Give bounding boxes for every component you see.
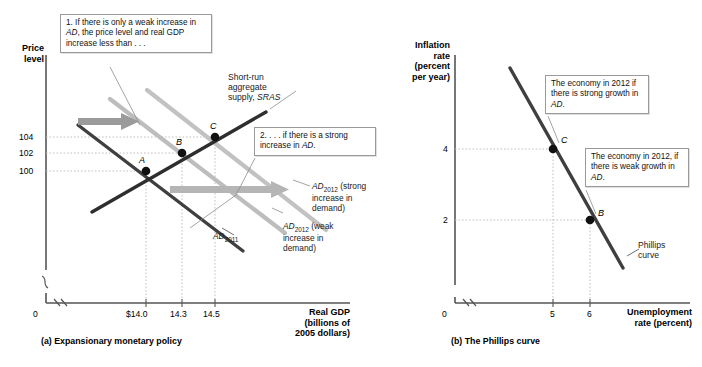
sras-curve-label: Short-run aggregate supply, SRAS [228, 72, 318, 102]
panel-b-x-axis-title: Unemployment rate (percent) [610, 307, 692, 328]
phillips-curve-label-line1: Phillips [638, 240, 694, 250]
panel-a-caption: (a) Expansionary monetary policy [41, 336, 182, 346]
callout-weak-growth-italic: AD [591, 173, 602, 182]
ad-2012-weak-note-line3: demand) [283, 244, 345, 254]
phillips-curve-label-line2: curve [638, 250, 694, 260]
ad-2012-weak-curve [110, 99, 285, 233]
panel-a-point-label-c: C [210, 121, 217, 131]
ad-2012-strong-label-sub: 2012 [324, 186, 338, 193]
panel-a-y-tick-102: 102 [19, 148, 33, 158]
callout-weak-increase: 1. If there is only a weak increase in A… [60, 14, 212, 53]
panel-b-origin-label: 0 [442, 309, 447, 319]
callout-weak-increase-pre: 1. If there is only a weak increase in [66, 18, 196, 27]
ad-2011-curve-label: AD2011 [213, 232, 238, 244]
sras-curve-label-line2: aggregate [228, 82, 318, 92]
panel-b-y-axis-title-line3: (percent [398, 61, 450, 72]
panel-a-x-axis-title: Real GDP (billions of 2005 dollars) [250, 307, 350, 339]
sras-abbrev: SRAS [257, 92, 280, 102]
callout-strong-increase-italic: AD [302, 141, 313, 150]
panel-a-origin-label: 0 [33, 309, 38, 319]
panel-a-x-tick-14-3: 14.3 [170, 309, 187, 319]
panel-a-y-axis-title-line2: level [12, 54, 44, 65]
callout-strong-growth: The economy in 2012 if there is strong g… [545, 75, 649, 114]
panel-b-y-axis-title: Inflation rate (percent per year) [398, 40, 450, 82]
ad-2011-label-sub: 2011 [225, 236, 239, 243]
ad-2012-weak-note-line1: (weak [311, 221, 333, 231]
panel-b-y-axis-title-line4: per year) [398, 72, 450, 83]
ad-2011-label-text: AD [213, 231, 225, 241]
callout-strong-growth-pre: The economy in 2012 if there is strong g… [551, 79, 638, 98]
panel-b-x-tick-5: 5 [550, 309, 555, 319]
ad-2012-strong-note-line1: (strong [340, 181, 366, 191]
panel-a-x-tick-14-0: $14.0 [126, 309, 148, 319]
panel-a-x-axis-title-line2: (billions of [250, 318, 350, 329]
panel-a-x-tick-14-5: 14.5 [203, 309, 220, 319]
sras-curve-label-line3: supply, SRAS [228, 92, 318, 102]
panel-a-point-label-a: A [139, 155, 145, 165]
callout-weak-increase-italic: AD [66, 28, 77, 37]
panel-a-y-tick-104: 104 [19, 132, 33, 142]
panel-b-y-axis-title-line2: rate [398, 51, 450, 62]
callout-strong-increase-post: . [313, 141, 315, 150]
callout-strong-growth-post: . [562, 100, 564, 109]
panel-b-y-axis-title-line1: Inflation [398, 40, 450, 51]
ad-2012-strong-note-line3: demand) [312, 204, 380, 214]
callout-weak-growth-post: . [602, 173, 604, 182]
panel-b-caption: (b) The Phillips curve [451, 336, 540, 346]
ad-2012-weak-label-sub: 2012 [295, 226, 309, 233]
panel-a-y-tick-100: 100 [19, 166, 33, 176]
callout-strong-growth-italic: AD [551, 100, 562, 109]
panel-b-point-label-c: C [561, 135, 568, 145]
point-b-marker [586, 216, 595, 225]
callout-strong-increase: 2. . . . if there is a strong increase i… [254, 127, 376, 156]
callout-weak-increase-post: , the price level and real GDP increase … [66, 28, 184, 47]
panel-a-point-label-b: B [176, 137, 182, 147]
panel-b-x-axis-title-line1: Unemployment [610, 307, 692, 318]
sras-curve-label-line1: Short-run [228, 72, 318, 82]
panel-a-x-axis-title-line3: 2005 dollars) [250, 328, 350, 339]
ad-2012-strong-curve [147, 90, 326, 230]
ad-2012-strong-label-text: AD [312, 181, 324, 191]
panel-b-y-tick-2: 2 [443, 215, 448, 225]
panel-a-shift-arrow-strong [170, 181, 289, 198]
panel-a-y-axis-title: Price level [12, 43, 44, 64]
panel-b-y-tick-4: 4 [443, 144, 448, 154]
panel-b-point-label-b: B [598, 208, 604, 218]
economics-figure: Price level 104 102 100 0 $14.0 14.3 14.… [0, 0, 702, 367]
callout-weak-growth-pre: The economy in 2012, if there is weak gr… [591, 152, 678, 171]
callout-weak-growth: The economy in 2012, if there is weak gr… [585, 148, 689, 187]
point-c-marker [211, 133, 220, 142]
point-a-marker [142, 167, 151, 176]
panel-b-x-axis-title-line2: rate (percent) [610, 318, 692, 329]
panel-a-y-axis-title-line1: Price [12, 43, 44, 54]
point-b-marker [178, 149, 187, 158]
phillips-curve-label: Phillips curve [638, 240, 694, 260]
point-c-marker [549, 145, 558, 154]
ad-2012-weak-label-text: AD [283, 221, 295, 231]
panel-a-x-axis-title-line1: Real GDP [250, 307, 350, 318]
ad-2012-strong-curve-label: AD2012 (strong increase in demand) [312, 182, 380, 213]
panel-b-x-tick-6: 6 [587, 309, 592, 319]
ad-2012-weak-curve-label: AD2012 (weak increase in demand) [283, 222, 345, 253]
